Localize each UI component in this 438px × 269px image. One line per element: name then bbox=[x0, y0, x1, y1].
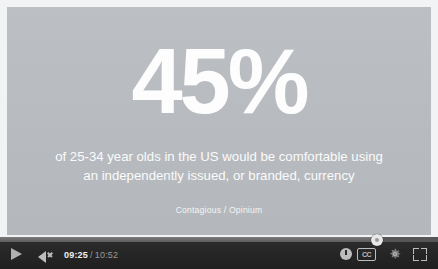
settings-button[interactable] bbox=[388, 246, 402, 262]
annotations-button[interactable] bbox=[340, 246, 352, 262]
play-icon bbox=[11, 248, 22, 260]
headline-statistic: 45% bbox=[131, 35, 306, 127]
video-viewport[interactable]: 45% of 25-34 year olds in the US would b… bbox=[0, 0, 438, 237]
statement-line-2: an independently issued, or branded, cur… bbox=[55, 166, 383, 185]
closed-captions-icon: CC bbox=[357, 248, 376, 261]
gear-icon bbox=[388, 247, 402, 261]
time-separator: / bbox=[90, 250, 93, 260]
volume-mute-icon bbox=[38, 248, 52, 261]
captions-button[interactable]: CC bbox=[357, 246, 376, 262]
progress-scrubber-handle[interactable] bbox=[371, 234, 383, 246]
progress-bar-loaded bbox=[377, 237, 438, 242]
time-total: 10:52 bbox=[95, 250, 119, 260]
play-button[interactable] bbox=[11, 246, 22, 262]
video-player: 45% of 25-34 year olds in the US would b… bbox=[0, 0, 438, 269]
fullscreen-button[interactable] bbox=[413, 246, 427, 262]
time-current: 09:25 bbox=[64, 250, 88, 260]
player-control-bar: 09:25 / 10:52 CC bbox=[0, 237, 438, 269]
annotations-icon bbox=[340, 248, 352, 260]
progress-bar-played bbox=[0, 237, 377, 242]
time-display: 09:25 / 10:52 bbox=[64, 247, 118, 263]
statement-text: of 25-34 year olds in the US would be co… bbox=[55, 147, 383, 185]
attribution-source: Contagious / Opinium bbox=[176, 205, 263, 215]
volume-button[interactable] bbox=[38, 246, 52, 262]
fullscreen-icon bbox=[413, 248, 427, 261]
statement-line-1: of 25-34 year olds in the US would be co… bbox=[55, 147, 383, 166]
presentation-slide: 45% of 25-34 year olds in the US would b… bbox=[7, 7, 431, 235]
progress-bar-track[interactable] bbox=[0, 237, 438, 242]
slide-content: 45% of 25-34 year olds in the US would b… bbox=[7, 7, 431, 235]
